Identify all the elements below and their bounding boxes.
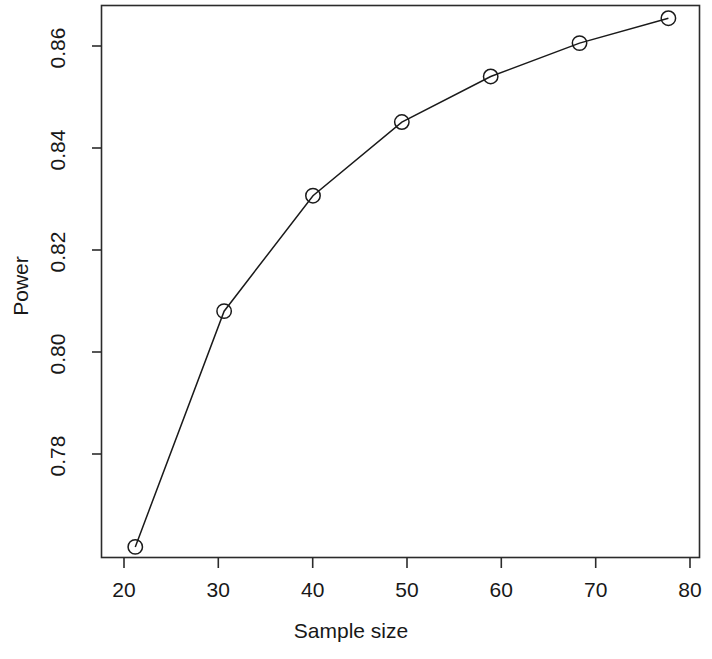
y-tick-label-0.86: 0.86 (46, 18, 70, 78)
y-tick-label-0.80: 0.80 (46, 324, 70, 384)
x-tick-label-80: 80 (660, 578, 712, 602)
x-tick-label-20: 20 (94, 578, 154, 602)
y-tick-label-0.84: 0.84 (46, 120, 70, 180)
x-tick-label-50: 50 (377, 578, 437, 602)
power-curve-figure: 0.86 0.84 0.82 0.80 0.78 20 30 40 50 60 … (0, 0, 712, 659)
y-axis-ticks (92, 46, 102, 454)
x-axis-title: Sample size (251, 619, 451, 643)
x-tick-label-60: 60 (471, 578, 531, 602)
plot-frame-box (102, 6, 700, 558)
x-tick-label-40: 40 (283, 578, 343, 602)
y-tick-label-0.82: 0.82 (46, 222, 70, 282)
y-tick-label-0.78: 0.78 (46, 426, 70, 486)
x-axis-ticks (124, 558, 690, 569)
power-data-markers (128, 11, 676, 554)
y-axis-title: Power (9, 231, 33, 341)
plot-area (0, 0, 712, 659)
power-data-line (135, 18, 668, 547)
x-tick-label-30: 30 (188, 578, 248, 602)
x-tick-label-70: 70 (566, 578, 626, 602)
